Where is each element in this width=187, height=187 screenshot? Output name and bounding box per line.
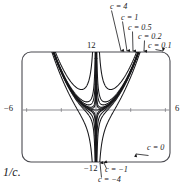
function-family-plot: [0, 0, 187, 187]
leader-line-c-1: [123, 22, 128, 52]
curve-label-c-0.5: c = 0.5: [128, 24, 152, 32]
axis-label-x-right: 6: [175, 104, 179, 113]
leader-line-c-05: [133, 32, 134, 52]
axis-label-x-left: −6: [4, 104, 13, 113]
axis-label-y-top: 12: [87, 41, 96, 50]
curve-label-c-neg-4: c = −4: [98, 176, 121, 184]
curve-label-c-1: c = 1: [121, 14, 138, 22]
leader-line-c-4: [112, 11, 122, 52]
curve-label-c-neg-1: c = −1: [105, 166, 128, 174]
leader-line-c-02: [144, 41, 145, 52]
curve-label-c-0.2: c = 0.2: [138, 33, 162, 41]
figure-caption: 1/c.: [3, 166, 21, 178]
curve-label-c-0.1: c = 0.1: [148, 42, 172, 50]
curve-label-c-4: c = 4: [110, 3, 127, 11]
axis-label-y-bottom: −12: [84, 164, 97, 173]
curve-label-c-0: c = 0: [147, 144, 164, 152]
